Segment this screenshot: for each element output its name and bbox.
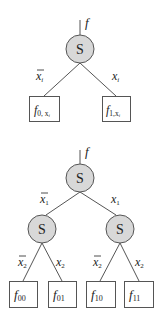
bottom-mid-node-left: S [28,215,56,243]
bottom-leaf-f11: f11 [125,282,154,308]
top-diagram: f xi xi S f0, xi [30,15,131,122]
svg-text:x1: x1 [39,192,49,207]
svg-text:x2: x2 [17,255,27,270]
bottom-leaf-f10: f10 [87,282,116,308]
bottom-edge-label-l1-left: x1 [39,192,49,207]
mux-node-label: S [38,222,46,237]
svg-text:xi: xi [35,69,43,84]
top-edge-left [44,63,80,96]
mux-node-label: S [76,171,84,186]
bottom-edge-label-l2-2: x2 [92,255,102,270]
top-edge-label-right: xi [111,69,119,84]
top-root-node: S [66,35,94,63]
bottom-mid-node-right: S [106,215,134,243]
svg-text:x1: x1 [110,192,120,207]
mux-node-label: S [76,42,84,57]
shannon-expansion-diagram: f xi xi S f0, xi [0,0,161,324]
bottom-diagram: f x1 x1 S x2 [10,144,154,308]
top-edge-label-left: xi [35,69,44,84]
bottom-edge-label-l2-0: x2 [17,255,27,270]
svg-text:x2: x2 [134,255,144,270]
bottom-output-label: f [85,144,91,159]
bottom-edge-label-l1-right: x1 [110,192,120,207]
top-leaf-f0: f0, xi [30,97,60,122]
bottom-edge-label-l2-3: x2 [134,255,144,270]
bottom-edge-label-l2-1: x2 [55,255,65,270]
svg-text:x2: x2 [92,255,102,270]
bottom-edge-l2-2 [100,243,120,281]
svg-text:x2: x2 [55,255,65,270]
top-output-label: f [85,15,91,30]
bottom-leaf-f00: f00 [10,282,38,308]
bottom-root-node: S [66,164,94,192]
bottom-leaf-f01: f01 [49,282,77,308]
mux-node-label: S [116,222,124,237]
top-leaf-f1: f1,xi [103,97,131,122]
svg-text:xi: xi [111,69,119,84]
top-edge-right [80,63,116,96]
bottom-edge-l1-left [46,192,80,215]
